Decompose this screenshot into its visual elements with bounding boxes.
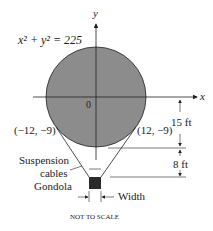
equation-label: x² + y² = 225 xyxy=(18,34,82,46)
width-label: Width xyxy=(118,191,145,202)
origin-label: 0 xyxy=(86,100,91,110)
dim-15-label: 15 ft xyxy=(171,117,191,128)
y-axis-label: y xyxy=(93,8,98,19)
cables-pointer xyxy=(70,166,82,170)
gondola-box xyxy=(89,177,101,189)
gondola-label: Gondola xyxy=(34,181,72,192)
cables-label-line2: cables xyxy=(40,168,67,179)
x-axis-label: x xyxy=(200,91,205,102)
dim-8-label: 8 ft xyxy=(173,159,188,170)
point-right-label: (12, −9) xyxy=(137,125,173,136)
point-left-label: (−12, −9) xyxy=(14,125,56,136)
not-to-scale-note: NOT TO SCALE xyxy=(70,214,119,221)
cables-label-line1: Suspension xyxy=(19,155,69,166)
